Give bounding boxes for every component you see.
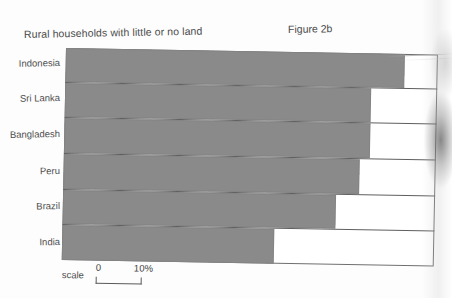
bar-row-india <box>62 225 435 266</box>
figure-page: Rural households with little or no land … <box>0 0 452 298</box>
category-label-bangladesh: Bangladesh <box>2 128 60 140</box>
page-title: Rural households with little or no land <box>24 25 203 40</box>
category-label-india: India <box>2 236 60 248</box>
bar-india <box>62 225 274 264</box>
figure-number-label: Figure 2b <box>288 22 333 35</box>
plot-area <box>62 48 438 266</box>
bar-peru <box>63 154 360 194</box>
category-label-sri-lanka: Sri Lanka <box>2 92 60 104</box>
category-label-indonesia: Indonesia <box>2 57 60 69</box>
bar-sri-lanka <box>65 83 371 122</box>
scale-max-label: 10% <box>134 262 153 273</box>
bar-bangladesh <box>64 118 370 158</box>
bar-indonesia <box>65 48 404 88</box>
category-label-peru: Peru <box>2 165 60 177</box>
category-label-brazil: Brazil <box>2 200 60 212</box>
scale-min-label: 0 <box>96 262 102 273</box>
bar-brazil <box>62 190 335 229</box>
scale-label: scale <box>62 269 84 280</box>
scale-bracket-icon <box>96 277 142 285</box>
